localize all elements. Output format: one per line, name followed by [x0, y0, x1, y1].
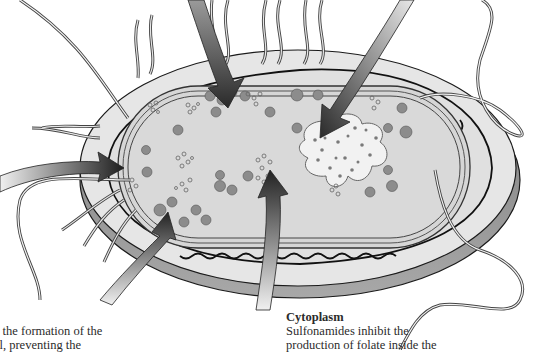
cytoplasm-label-line1: Sulfonamides inhibit the	[286, 324, 437, 338]
cytoplasm-label-line2: production of folate inside the	[286, 338, 437, 352]
cell-wall-label: t the formation of the ll, preventing th…	[0, 324, 102, 352]
cell-wall-label-line1: t the formation of the	[0, 324, 102, 338]
cytoplasm-label-title: Cytoplasm	[286, 310, 437, 324]
cell-wall-label-line2: ll, preventing the	[0, 338, 102, 352]
cytoplasm-label: Cytoplasm Sulfonamides inhibit the produ…	[286, 310, 437, 352]
